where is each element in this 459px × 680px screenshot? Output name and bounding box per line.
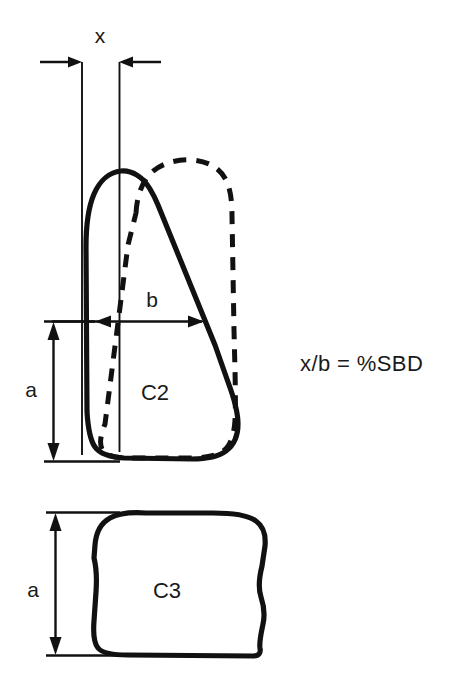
b-dimension-label: b — [146, 288, 158, 311]
b-left-arrowhead-icon — [95, 316, 111, 328]
a-upper-bottom-arrowhead-icon — [48, 443, 60, 461]
a-lower-label: a — [27, 578, 39, 601]
a-upper-label: a — [25, 378, 37, 401]
a-dimension-lower-group: a — [27, 513, 130, 656]
c2-dashed-outline-group — [101, 160, 236, 458]
sbd-diagram-svg: x b a C2 — [0, 0, 459, 680]
figure-root: x b a C2 — [0, 0, 459, 680]
x-dimension-label: x — [95, 24, 106, 47]
a-lower-bottom-arrowhead-icon — [50, 637, 62, 655]
c3-body-label: C3 — [153, 578, 181, 603]
x-dimension-group: x — [40, 24, 161, 68]
a-upper-top-arrowhead-icon — [48, 322, 60, 340]
c2-body-label: C2 — [141, 380, 169, 405]
x-right-arrowhead-icon — [119, 57, 133, 68]
a-lower-top-arrowhead-icon — [50, 513, 62, 531]
sbd-formula-label: x/b = %SBD — [300, 351, 423, 376]
c2-displaced-outline — [101, 160, 236, 458]
a-dimension-upper-group: a — [25, 322, 120, 462]
x-left-arrowhead-icon — [68, 57, 82, 68]
c2-solid-outline-group — [86, 171, 238, 459]
c2-outline — [86, 171, 238, 459]
